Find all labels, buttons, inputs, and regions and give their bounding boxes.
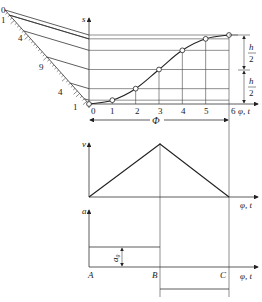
cam-motion-diagram: s φ, t 0 1 4 9 4 1 0 1 2 3 4 5 6 (0, 0, 262, 302)
construction-tick (83, 101, 87, 104)
construction-tick (59, 73, 61, 75)
x-tick-0: 0 (91, 106, 96, 116)
point-b-label: B (152, 270, 158, 280)
construction-tick (5, 13, 7, 15)
phi-axis-label: φ, t (238, 106, 250, 116)
upper-h-label: h (249, 42, 254, 52)
v-axis-label: v (82, 139, 86, 149)
construction-label-4: 4 (18, 33, 23, 43)
phi-span-label: Φ (152, 115, 160, 126)
displacement-plot: s φ, t 0 1 4 9 4 1 0 1 2 3 4 5 6 (1, 5, 258, 126)
construction-tick (82, 99, 84, 101)
construction-tick (11, 20, 15, 23)
upper-h2-label: h 2 (248, 42, 256, 64)
curve-point (133, 86, 138, 91)
construction-tick (29, 39, 31, 41)
construction-tick (47, 60, 49, 62)
a-phi-axis-label: φ, t (240, 271, 252, 281)
construction-tick (50, 62, 52, 64)
construction-tick (68, 83, 70, 85)
projection-line (24, 31, 89, 50)
point-a-label: A (87, 270, 94, 280)
curve-point (110, 98, 115, 103)
construction-tick (17, 26, 19, 28)
construction-tick (62, 78, 66, 81)
projection-line (47, 57, 89, 70)
lower-h2-label: h 2 (248, 76, 256, 98)
curve-point (180, 48, 185, 53)
velocity-curve (89, 144, 229, 197)
construction-tick (33, 44, 35, 46)
x-tick-6: 6 (231, 106, 236, 116)
curve-point (203, 36, 208, 41)
v-phi-axis-label: φ, t (240, 200, 252, 210)
construction-tick (43, 57, 47, 60)
a0-label: a₀ (110, 254, 120, 262)
construction-tick (31, 41, 33, 43)
construction-tick (36, 47, 38, 49)
horizontal-grid-lines (89, 35, 238, 100)
construction-tick (80, 96, 82, 98)
construction-tick (38, 49, 40, 51)
construction-label-1: 1 (1, 15, 6, 25)
construction-tick (40, 52, 42, 54)
construction-label-9: 9 (39, 62, 44, 72)
a-axis-label: a (82, 206, 87, 216)
projection-line (5, 10, 89, 35)
construction-tick (71, 86, 73, 88)
acceleration-plot: a φ, t a₀ A B C (82, 206, 258, 289)
construction-label-0: 0 (1, 5, 6, 15)
lower-h-label: h (249, 76, 254, 86)
construction-tick (66, 81, 68, 83)
x-tick-2: 2 (135, 106, 140, 116)
x-tick-1: 1 (110, 106, 115, 116)
construction-label-4b: 4 (58, 87, 63, 97)
construction-tick (57, 70, 59, 72)
construction-tick (43, 54, 45, 56)
construction-tick (76, 94, 80, 97)
x-tick-4: 4 (181, 106, 186, 116)
point-c-label: C (220, 270, 227, 280)
construction-tick (15, 23, 17, 25)
construction-tick (74, 91, 78, 94)
s-axis-label: s (82, 14, 86, 24)
construction-tick (54, 67, 56, 69)
construction-tick (25, 36, 29, 39)
upper-2-label: 2 (249, 54, 254, 64)
lower-2-label: 2 (249, 88, 254, 98)
construction-tick (52, 65, 54, 67)
construction-label-1b: 1 (73, 102, 78, 112)
x-tick-5: 5 (204, 106, 209, 116)
construction-tick (73, 88, 75, 90)
construction-tick (61, 75, 63, 77)
construction-tick (24, 34, 26, 36)
construction-tick (10, 18, 12, 20)
curve-point (157, 67, 162, 72)
construction-tick (19, 28, 21, 30)
velocity-plot: v φ, t (82, 139, 258, 210)
